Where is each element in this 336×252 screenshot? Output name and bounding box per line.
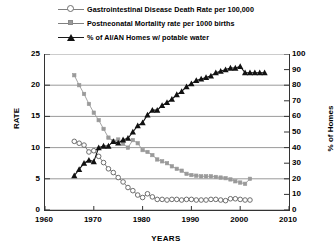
plot-canvas — [45, 54, 289, 210]
y-tick-label-right: 20 — [292, 175, 316, 183]
y-tick-label-left: 15 — [18, 112, 40, 120]
legend-key-triangle — [58, 31, 84, 43]
legend-item-potable-water: % of AI/AN Homes w/ potable water — [58, 30, 308, 44]
y-axis-title-left: RATE — [12, 99, 21, 139]
x-axis-title: YEARS — [44, 234, 288, 243]
y-tick-label-right: 80 — [292, 81, 316, 89]
triangle-marker-icon — [67, 34, 75, 41]
y-tick-marks-right — [284, 54, 289, 210]
x-tick-label: 1960 — [27, 216, 61, 224]
legend-label-potable-water: % of AI/AN Homes w/ potable water — [87, 33, 209, 42]
y-tick-label-right: 30 — [292, 159, 316, 167]
open-circle-marker-icon — [67, 5, 74, 12]
y-tick-label-left: 25 — [18, 50, 40, 58]
x-tick-label: 2000 — [222, 216, 256, 224]
x-tick-label: 1980 — [125, 216, 159, 224]
series-1 — [73, 74, 252, 186]
y-tick-label-right: 100 — [292, 50, 316, 58]
x-tick-label: 1990 — [173, 216, 207, 224]
y-tick-label-right: 10 — [292, 190, 316, 198]
chart-legend: Gastrointestinal Disease Death Rate per … — [58, 2, 308, 44]
y-tick-label-right: 70 — [292, 97, 316, 105]
y-tick-label-left: 0 — [18, 206, 40, 214]
y-tick-label-left: 10 — [18, 144, 40, 152]
legend-item-postneonatal: Postneonatal Mortality rate per 1000 bir… — [58, 16, 308, 30]
x-tick-marks — [45, 206, 289, 210]
x-tick-label: 1970 — [76, 216, 110, 224]
y-tick-label-left: 5 — [18, 175, 40, 183]
y-axis-title-right: % of Homes — [326, 99, 335, 159]
legend-key-open-circle — [58, 3, 84, 15]
legend-label-postneonatal: Postneonatal Mortality rate per 1000 bir… — [87, 19, 235, 28]
square-marker-icon — [68, 20, 73, 25]
y-tick-label-left: 20 — [18, 81, 40, 89]
y-tick-label-right: 90 — [292, 66, 316, 74]
x-tick-label: 2010 — [271, 216, 305, 224]
y-tick-label-right: 60 — [292, 112, 316, 120]
data-series-layer — [71, 63, 268, 203]
legend-label-gi-disease: Gastrointestinal Disease Death Rate per … — [87, 5, 254, 14]
y-tick-label-right: 0 — [292, 206, 316, 214]
legend-key-small-square — [58, 17, 84, 29]
y-tick-label-right: 40 — [292, 144, 316, 152]
gridlines — [45, 54, 289, 210]
y-tick-marks-left — [45, 54, 50, 210]
y-tick-label-right: 50 — [292, 128, 316, 136]
chart-figure: Gastrointestinal Disease Death Rate per … — [0, 0, 336, 252]
plot-area — [44, 54, 290, 211]
legend-item-gi-disease: Gastrointestinal Disease Death Rate per … — [58, 2, 308, 16]
